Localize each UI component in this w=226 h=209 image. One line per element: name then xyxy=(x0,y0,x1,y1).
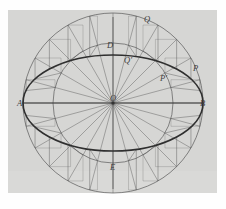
label-A: A xyxy=(17,99,22,108)
radial-ray xyxy=(90,103,113,190)
label-B: B xyxy=(200,99,205,108)
radial-ray xyxy=(90,16,113,103)
ellipse-construction-drawing xyxy=(0,0,226,209)
radial-ray xyxy=(113,39,177,103)
ordinate-horizontal xyxy=(90,149,98,161)
label-O: O xyxy=(110,94,116,103)
radial-ray xyxy=(35,58,113,103)
radial-ray xyxy=(49,103,113,167)
ordinate-horizontal xyxy=(129,149,137,161)
ordinate-horizontal xyxy=(171,87,200,90)
radial-ray xyxy=(68,25,113,103)
radial-ray xyxy=(113,80,200,103)
ordinate-horizontal xyxy=(90,45,98,57)
ordinate-horizontal xyxy=(171,115,200,118)
radial-ray xyxy=(68,103,113,181)
ordinate-horizontal xyxy=(26,115,55,118)
label-D: D xyxy=(107,41,113,50)
radial-ray xyxy=(26,103,113,126)
radial-ray xyxy=(113,103,158,181)
ordinate-horizontal xyxy=(26,87,55,90)
label-Q-prime: Q' xyxy=(124,56,132,65)
label-P: P xyxy=(193,64,198,73)
figure-root: A B D E O Q Q' P P' xyxy=(0,0,226,209)
radial-ray xyxy=(113,103,191,148)
radial-ray xyxy=(113,25,158,103)
radial-ray xyxy=(35,103,113,148)
radial-ray xyxy=(113,103,200,126)
label-E: E xyxy=(110,163,115,172)
label-P-prime: P' xyxy=(160,74,167,83)
label-Q: Q xyxy=(144,15,150,24)
radial-ray xyxy=(26,80,113,103)
radial-ray xyxy=(113,103,136,190)
radial-ray xyxy=(49,39,113,103)
radial-ray xyxy=(113,103,177,167)
